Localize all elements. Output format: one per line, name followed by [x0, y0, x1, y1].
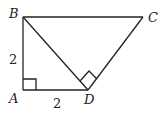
label-length-AD: 2 — [53, 96, 61, 111]
label-length-AB: 2 — [9, 52, 17, 67]
label-A: A — [8, 91, 18, 106]
geometry-diagram: B C A D 2 2 — [0, 0, 159, 114]
label-B: B — [8, 6, 19, 21]
right-angle-marker-A — [23, 79, 36, 90]
label-D: D — [83, 92, 95, 107]
right-angle-marker-D — [80, 71, 97, 81]
label-C: C — [148, 10, 158, 25]
